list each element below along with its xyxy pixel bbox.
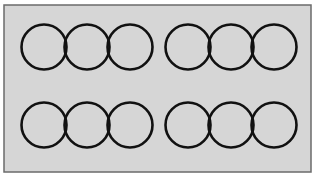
circles-figure <box>0 0 318 178</box>
figure-root <box>0 0 318 178</box>
